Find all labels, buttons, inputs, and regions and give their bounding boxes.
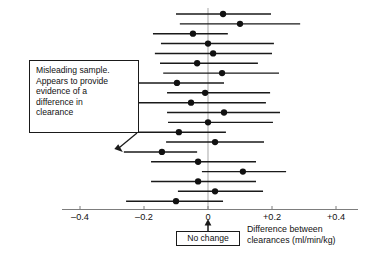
x-axis-caption: Difference between clearances (ml/min/kg… — [247, 224, 375, 246]
estimate-point — [220, 11, 226, 17]
estimate-point — [212, 188, 218, 194]
interval-row — [130, 80, 224, 86]
interval-row — [178, 188, 263, 194]
estimate-point — [240, 168, 246, 174]
x-axis: –0.4–0.20+0.2+0.4 — [62, 206, 358, 222]
axis-tick-label: –0.2 — [135, 212, 153, 222]
interval-row — [131, 100, 266, 106]
estimate-point — [173, 198, 179, 204]
interval-row — [176, 11, 271, 17]
interval-row — [151, 178, 256, 184]
axis-tick-label: +0.2 — [263, 212, 281, 222]
interval-row — [161, 40, 274, 46]
estimate-point — [194, 60, 200, 66]
forest-plot-figure: –0.4–0.20+0.2+0.4 Misleading sample. App… — [0, 0, 380, 260]
estimate-point — [176, 129, 182, 135]
annotation-arrow — [114, 133, 137, 152]
interval-row — [202, 168, 286, 174]
estimate-point — [159, 149, 165, 155]
estimate-point — [202, 90, 208, 96]
interval-row — [166, 139, 264, 145]
interval-row — [131, 129, 226, 135]
interval-row — [168, 119, 273, 125]
interval-row — [180, 21, 300, 27]
interval-rows — [124, 11, 300, 204]
estimate-point — [195, 178, 201, 184]
estimate-point — [190, 31, 196, 37]
interval-row — [163, 70, 279, 76]
annotation-leader-line — [119, 133, 137, 148]
interval-row — [167, 109, 280, 115]
estimate-point — [210, 50, 216, 56]
interval-row — [151, 159, 256, 165]
estimate-point — [195, 159, 201, 165]
no-change-label: No change — [176, 231, 240, 246]
estimate-point — [174, 80, 180, 86]
interval-row — [167, 90, 270, 96]
estimate-point — [219, 70, 225, 76]
estimate-point — [205, 40, 211, 46]
misleading-sample-annotation: Misleading sample. Appears to provide ev… — [29, 60, 139, 133]
interval-row — [124, 149, 197, 155]
interval-row — [160, 60, 258, 66]
interval-row — [153, 31, 228, 37]
estimate-point — [205, 119, 211, 125]
estimate-point — [188, 100, 194, 106]
interval-row — [155, 50, 272, 56]
axis-tick-label: +0.4 — [327, 212, 345, 222]
axis-tick-label: –0.4 — [71, 212, 89, 222]
estimate-point — [221, 109, 227, 115]
estimate-point — [237, 21, 243, 27]
estimate-point — [212, 139, 218, 145]
